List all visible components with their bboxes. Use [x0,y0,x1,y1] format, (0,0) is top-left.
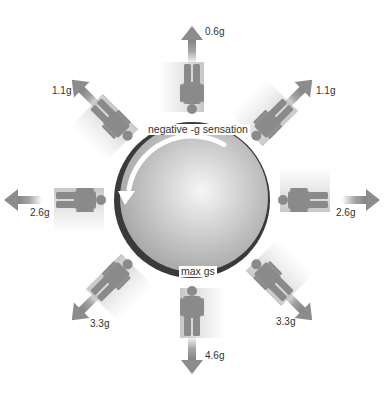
negative-g-annotation: negative -g sensation [146,124,250,135]
g-label-bottom-left: 3.3g [90,318,109,329]
g-label-left: 2.6g [30,207,49,218]
g-label-top: 0.6g [205,26,224,37]
g-label-right: 2.6g [336,207,355,218]
g-label-top-left: 1.1g [52,85,71,96]
force-arrow-top-icon [181,26,203,64]
max-g-annotation: max gs [179,266,217,277]
loop-sphere [114,122,270,278]
g-force-diagram: 0.6g 1.1g 2.6g 3.3g 4.6g 3.3g 2.6g 1.1g … [0,0,384,397]
sphere-body [120,124,268,272]
g-label-bottom-right: 3.3g [276,316,295,327]
force-arrow-bottom-icon [181,336,203,374]
g-label-top-right: 1.1g [316,85,335,96]
g-label-bottom: 4.6g [205,350,224,361]
diagram-canvas [0,0,384,397]
